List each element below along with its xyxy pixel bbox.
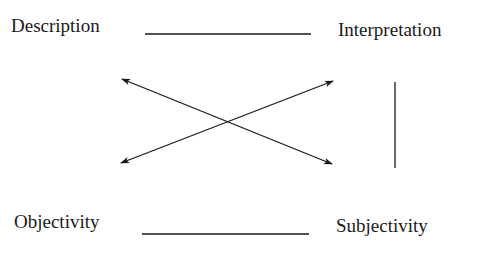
- diagram-connectors: [0, 0, 482, 273]
- double-arrow-interpretation-objectivity: [121, 81, 333, 163]
